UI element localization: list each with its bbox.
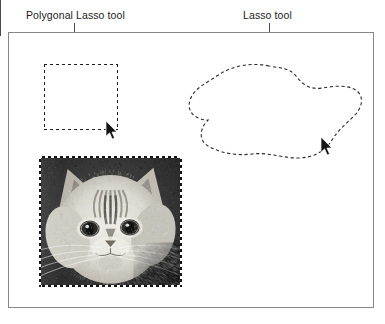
cat-photo-selection[interactable]: [39, 156, 182, 287]
polygonal-lasso-cursor: [105, 121, 119, 140]
callout-leader-line-cat-photo: [0, 0, 1, 36]
lasso-selection[interactable]: [186, 58, 366, 162]
lasso-selection-path: [189, 64, 361, 158]
cat-photo: [39, 156, 182, 287]
selection-edge-top: [44, 64, 118, 65]
selection-edge-left: [44, 64, 45, 130]
callout-label-lasso: Lasso tool: [243, 9, 292, 21]
lasso-cursor: [320, 137, 334, 156]
callout-label-polygonal-lasso: Polygonal Lasso tool: [26, 9, 125, 21]
illustration-stage: Polygonal Lasso tool Lasso tool: [0, 0, 385, 324]
